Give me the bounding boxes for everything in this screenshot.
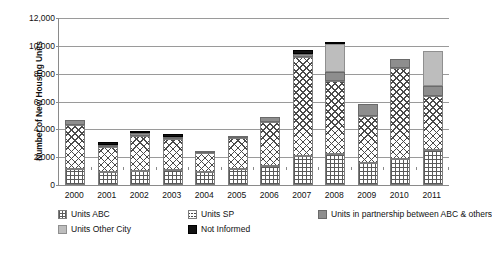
- bar-segment[interactable]: [390, 59, 410, 68]
- legend-item[interactable]: Units SP: [188, 210, 234, 219]
- bar-segment[interactable]: [163, 139, 183, 170]
- bar-segment[interactable]: [228, 138, 248, 169]
- legend-item[interactable]: Not Informed: [188, 225, 250, 234]
- bar-segment[interactable]: [358, 104, 378, 116]
- legend-swatch-icon: [318, 210, 327, 219]
- bar-group[interactable]: [423, 51, 443, 185]
- bar-group[interactable]: [65, 120, 85, 185]
- x-tick-label-2004: 2004: [187, 190, 221, 200]
- bar-segment[interactable]: [130, 133, 150, 136]
- x-tick-mark: [351, 167, 352, 170]
- bar-segment[interactable]: [293, 57, 313, 156]
- bar-segment[interactable]: [195, 153, 215, 172]
- bar-segment[interactable]: [130, 136, 150, 171]
- bar-group[interactable]: [130, 131, 150, 185]
- legend-label: Units SP: [201, 210, 234, 219]
- x-tick-mark: [188, 167, 189, 170]
- legend-label: Units ABC: [71, 210, 110, 219]
- bar-segment[interactable]: [228, 169, 248, 185]
- bar-segment[interactable]: [325, 72, 345, 82]
- bar-segment[interactable]: [195, 151, 215, 153]
- bar-group[interactable]: [195, 151, 215, 185]
- x-tick-label-2006: 2006: [252, 190, 286, 200]
- x-tick-mark: [156, 167, 157, 170]
- bar-segment[interactable]: [293, 50, 313, 53]
- y-tick-label: 10,000: [29, 41, 55, 51]
- bar-group[interactable]: [228, 136, 248, 185]
- x-tick-label-2005: 2005: [220, 190, 254, 200]
- legend-label: Units Other City: [71, 225, 131, 234]
- y-tick-label: 12,000: [29, 13, 55, 23]
- bar-segment[interactable]: [423, 51, 443, 86]
- bar-segment[interactable]: [358, 116, 378, 163]
- bar-segment[interactable]: [358, 163, 378, 185]
- y-tick-label: 0: [50, 180, 55, 190]
- legend-swatch-icon: [58, 210, 67, 219]
- y-tick-label: 4,000: [34, 124, 55, 134]
- bar-segment[interactable]: [98, 145, 118, 147]
- bar-segment[interactable]: [325, 81, 345, 153]
- bar-segment[interactable]: [163, 137, 183, 139]
- bar-segment[interactable]: [130, 131, 150, 133]
- bar-segment[interactable]: [65, 125, 85, 169]
- legend-swatch-icon: [58, 225, 67, 234]
- bar-group[interactable]: [98, 142, 118, 185]
- bar-segment[interactable]: [260, 117, 280, 123]
- x-tick-mark: [253, 167, 254, 170]
- y-tick-label: 8,000: [34, 69, 55, 79]
- x-tick-label-2002: 2002: [122, 190, 156, 200]
- bar-segment[interactable]: [293, 54, 313, 57]
- bar-segment[interactable]: [228, 136, 248, 139]
- x-tick-label-2008: 2008: [317, 190, 351, 200]
- bar-segment[interactable]: [325, 154, 345, 185]
- legend-item[interactable]: Units in partnership between ABC & other…: [318, 210, 492, 219]
- legend-label: Units in partnership between ABC & other…: [331, 210, 492, 219]
- bar-segment[interactable]: [163, 134, 183, 137]
- x-tick-mark: [383, 167, 384, 170]
- bar-segment[interactable]: [98, 142, 118, 145]
- bar-segment[interactable]: [293, 156, 313, 185]
- x-tick-mark: [123, 167, 124, 170]
- plot-area: 02,0004,0006,0008,00010,00012,000: [58, 18, 449, 186]
- bar-segment[interactable]: [325, 42, 345, 45]
- bar-group[interactable]: [325, 42, 345, 185]
- chart-legend: Units ABCUnits SPUnits in partnership be…: [58, 210, 453, 250]
- x-tick-mark: [91, 167, 92, 170]
- bar-segment[interactable]: [98, 172, 118, 185]
- legend-item[interactable]: Units ABC: [58, 210, 110, 219]
- bar-group[interactable]: [390, 59, 410, 185]
- bar-segment[interactable]: [423, 86, 443, 96]
- bar-segment[interactable]: [390, 68, 410, 158]
- bar-group[interactable]: [293, 50, 313, 185]
- y-tick-label: 2,000: [34, 152, 55, 162]
- x-tick-mark: [448, 167, 449, 170]
- legend-item[interactable]: Units Other City: [58, 225, 131, 234]
- bar-group[interactable]: [260, 117, 280, 185]
- y-tick-mark: [56, 185, 59, 186]
- bar-segment[interactable]: [195, 172, 215, 185]
- bar-group[interactable]: [358, 104, 378, 185]
- y-tick-label: 6,000: [34, 97, 55, 107]
- x-tick-label-2009: 2009: [350, 190, 384, 200]
- bars-layer: [59, 18, 449, 185]
- bar-segment[interactable]: [423, 150, 443, 185]
- x-tick-mark: [221, 167, 222, 170]
- bar-segment[interactable]: [130, 171, 150, 185]
- bar-segment[interactable]: [65, 169, 85, 185]
- x-tick-mark: [318, 167, 319, 170]
- bar-segment[interactable]: [163, 170, 183, 185]
- legend-swatch-icon: [188, 210, 197, 219]
- bar-group[interactable]: [163, 134, 183, 185]
- bar-segment[interactable]: [260, 166, 280, 185]
- bar-segment[interactable]: [65, 120, 85, 126]
- x-tick-mark: [416, 167, 417, 170]
- bar-segment[interactable]: [423, 96, 443, 150]
- bar-segment[interactable]: [325, 44, 345, 71]
- bar-segment[interactable]: [98, 147, 118, 173]
- x-tick-label-2003: 2003: [155, 190, 189, 200]
- bar-segment[interactable]: [390, 159, 410, 185]
- x-tick-label-2001: 2001: [90, 190, 124, 200]
- x-tick-label-2011: 2011: [415, 190, 449, 200]
- bar-segment[interactable]: [260, 122, 280, 166]
